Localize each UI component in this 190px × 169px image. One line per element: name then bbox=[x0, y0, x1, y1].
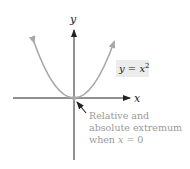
annotation-line-3: when x = 0 bbox=[89, 134, 143, 145]
annotation-line-2: absolute extremum bbox=[89, 122, 182, 133]
vertex-point bbox=[72, 96, 76, 100]
x-axis-label: x bbox=[134, 92, 141, 105]
annotation-line-1: Relative and bbox=[89, 110, 149, 121]
parabola-diagram: x y y = x2 Relative and absolute extremu… bbox=[0, 0, 190, 169]
annotation-arrow bbox=[77, 102, 86, 113]
equation-label: y = x2 bbox=[118, 62, 150, 74]
y-axis-label: y bbox=[69, 13, 77, 26]
